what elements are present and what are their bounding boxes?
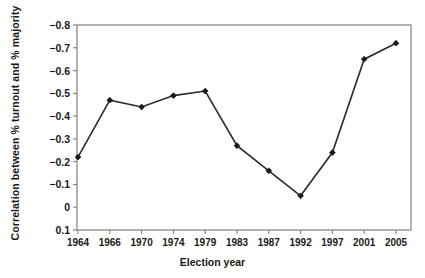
chart-figure: Correlation between % turnout and % majo…	[0, 0, 425, 278]
x-tick-label: 2001	[353, 237, 375, 248]
x-axis-title: Election year	[0, 256, 425, 268]
x-tick-label: 1974	[162, 237, 184, 248]
x-tick-label: 1997	[321, 237, 343, 248]
x-tick-label: 1987	[258, 237, 280, 248]
x-tick-label: 1983	[226, 237, 248, 248]
x-tick-label: 1966	[99, 237, 121, 248]
x-tick-label: 1964	[67, 237, 89, 248]
x-tick-label: 1992	[289, 237, 311, 248]
x-tick-label: 1970	[130, 237, 152, 248]
x-axis-tick-labels: 1964196619701974197919831987199219972001…	[0, 0, 425, 278]
x-tick-label: 1979	[194, 237, 216, 248]
x-tick-label: 2005	[385, 237, 407, 248]
